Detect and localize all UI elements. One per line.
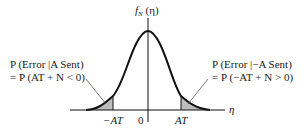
right-pointer-line [188, 79, 208, 104]
x-axis-label: η [229, 103, 234, 115]
left-annotation-line1: P (Error |A Sent) [10, 58, 84, 71]
tick-label-pos-at: AT [174, 114, 188, 126]
gaussian-pdf-diagram: fN (η) η −AT 0 AT P (Error |A Sent) = P … [0, 0, 305, 132]
tick-label-neg-at: −AT [103, 114, 124, 126]
y-axis-label: fN (η) [135, 4, 159, 18]
right-annotation-line2: = P (−AT + N > 0) [212, 71, 293, 84]
tick-label-zero: 0 [138, 114, 144, 126]
left-pointer-line [86, 79, 106, 104]
left-annotation-line2: = P (AT + N < 0) [10, 71, 85, 84]
right-tail-shade [181, 96, 210, 110]
left-tail-shade [86, 96, 113, 110]
right-annotation-line1: P (Error |−A Sent) [212, 58, 292, 71]
